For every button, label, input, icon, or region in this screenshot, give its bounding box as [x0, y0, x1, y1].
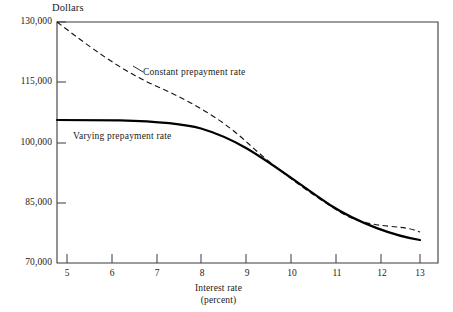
y-axis-ticks	[57, 22, 66, 203]
chart-figure: Dollars 130,000 115,000 100,000 85,000 7…	[0, 0, 453, 312]
series-annotation-constant-prepayment-rate: Constant prepayment rate	[143, 67, 245, 77]
series-annotation-varying-prepayment-rate: Varying prepayment rate	[73, 131, 172, 141]
annotation-leader-constant	[133, 66, 143, 72]
x-axis-title: Interest rate	[0, 283, 445, 293]
series-constant-prepayment-rate	[57, 22, 420, 232]
x-axis-ticks	[67, 254, 420, 263]
x-axis-title-unit: (percent)	[0, 295, 445, 305]
plot-area	[0, 0, 453, 312]
